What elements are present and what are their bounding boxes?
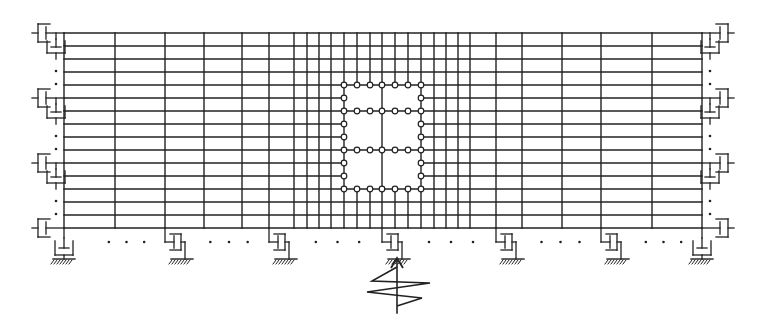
- ellipsis-dot: [315, 241, 318, 244]
- ellipsis-dot: [428, 241, 431, 244]
- ellipsis-dot: [709, 213, 712, 216]
- left-boundary-damper-group: [32, 219, 64, 237]
- opening-node: [341, 108, 347, 114]
- ellipsis-dot: [108, 241, 111, 244]
- opening-node: [367, 186, 373, 192]
- opening-node: [418, 121, 424, 127]
- ellipsis-dot: [55, 70, 58, 73]
- ellipsis-dot: [709, 70, 712, 73]
- ellipsis-dot: [559, 241, 562, 244]
- opening-node: [367, 108, 373, 114]
- bottom-damper-group: [601, 228, 629, 264]
- opening-node: [405, 147, 411, 153]
- ground-support-icon: [689, 259, 713, 264]
- corner-vertical-damper-group: [689, 228, 713, 264]
- opening-node: [379, 108, 385, 114]
- ellipsis-dot: [55, 83, 58, 86]
- ellipsis-dot: [228, 241, 231, 244]
- opening-node: [418, 186, 424, 192]
- ground-support-icon: [605, 259, 629, 264]
- ellipsis-dot: [143, 241, 146, 244]
- corner-vertical-damper-group: [51, 228, 75, 264]
- opening-node: [392, 147, 398, 153]
- opening-node: [418, 134, 424, 140]
- opening-node: [367, 82, 373, 88]
- ellipsis-dot: [55, 200, 58, 203]
- ellipsis-dot: [55, 135, 58, 138]
- opening-node: [354, 108, 360, 114]
- bottom-damper-group: [269, 228, 297, 264]
- opening-node: [392, 186, 398, 192]
- ellipsis-dot: [662, 241, 665, 244]
- opening-node: [418, 82, 424, 88]
- opening-node: [392, 108, 398, 114]
- ellipsis-dot: [450, 241, 453, 244]
- opening-node: [367, 147, 373, 153]
- soil-structure-mesh-diagram: [0, 0, 761, 336]
- ellipsis-dot: [472, 241, 475, 244]
- ellipsis-dot: [209, 241, 212, 244]
- opening-node: [341, 186, 347, 192]
- opening-node: [341, 173, 347, 179]
- opening-node: [405, 108, 411, 114]
- ellipsis-dot: [55, 213, 58, 216]
- lateral-viscous-dampers: [32, 24, 734, 237]
- ground-support-icon: [500, 259, 524, 264]
- right-boundary-damper-group: [702, 219, 734, 237]
- seismic-wave-input-icon: [367, 258, 430, 313]
- opening-node: [341, 160, 347, 166]
- left-boundary-damper-group: [32, 89, 65, 150]
- opening-node: [341, 95, 347, 101]
- bottom-viscous-dampers: [51, 228, 713, 264]
- finite-element-mesh: [64, 33, 702, 228]
- ellipsis-dot: [709, 148, 712, 151]
- opening-node: [341, 82, 347, 88]
- ellipsis-dot: [55, 148, 58, 151]
- opening-node: [341, 147, 347, 153]
- ellipsis-dot: [125, 241, 128, 244]
- ellipsis-dot: [246, 241, 249, 244]
- opening-node: [405, 186, 411, 192]
- bottom-damper-group: [165, 228, 193, 264]
- opening-node: [379, 82, 385, 88]
- opening-node: [418, 173, 424, 179]
- opening-node: [354, 82, 360, 88]
- ground-support-icon: [169, 259, 193, 264]
- opening-node: [418, 147, 424, 153]
- bottom-damper-group: [496, 228, 524, 264]
- opening-node: [354, 186, 360, 192]
- left-boundary-damper-group: [32, 154, 65, 215]
- ground-support-icon: [51, 259, 75, 264]
- ground-support-icon: [273, 259, 297, 264]
- ellipsis-dot: [680, 241, 683, 244]
- zigzag-wave-icon: [367, 267, 430, 306]
- opening-node: [341, 121, 347, 127]
- opening-node: [405, 82, 411, 88]
- opening-node: [418, 108, 424, 114]
- opening-node: [379, 147, 385, 153]
- opening-node: [379, 186, 385, 192]
- ellipsis-dot: [358, 241, 361, 244]
- opening-node: [418, 160, 424, 166]
- opening-node: [392, 82, 398, 88]
- opening-node: [418, 95, 424, 101]
- ellipsis-dot: [709, 200, 712, 203]
- ellipsis-dot: [578, 241, 581, 244]
- right-boundary-damper-group: [701, 89, 734, 150]
- right-boundary-damper-group: [701, 154, 734, 215]
- left-boundary-damper-group: [32, 24, 65, 85]
- opening-node: [341, 134, 347, 140]
- ellipsis-dot: [540, 241, 543, 244]
- ellipsis-dot: [709, 135, 712, 138]
- ellipsis-dot: [336, 241, 339, 244]
- opening-node: [354, 147, 360, 153]
- right-boundary-damper-group: [701, 24, 734, 85]
- ellipsis-dot: [709, 83, 712, 86]
- ellipsis-dot: [645, 241, 648, 244]
